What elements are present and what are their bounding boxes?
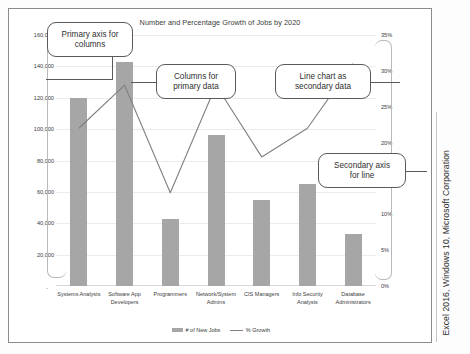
category-label-line2: Administrators [330,298,376,306]
page-edge-divider [436,112,437,342]
category-label-6: DatabaseAdministrators [330,290,376,306]
category-label-5: Info SecurityAnalysts [285,290,331,306]
category-label-line1: Database [330,290,376,298]
legend-label-growth: % Growth [246,327,270,333]
category-label-line1: Network/System [193,290,239,298]
legend-label-new-jobs: # of New Jobs [185,327,220,333]
callout-columns-primary-line1: Columns for [173,72,219,82]
bar-swatch-icon [172,328,183,332]
callout-columns-primary[interactable]: Columns for primary data [156,64,236,99]
leader-columns-primary [131,82,158,83]
y2-tick-35: 35% [381,32,411,38]
callout-columns-primary-line2: primary data [173,82,219,92]
legend-item-new-jobs[interactable]: # of New Jobs [172,327,220,333]
leader-secondary-axis [405,171,427,172]
callout-line-secondary[interactable]: Line chart as secondary data [275,64,371,99]
category-label-line1: Info Security [285,290,331,298]
category-label-line1: CIS Managers [239,290,285,298]
leader-primary-axis-horizontal [46,79,113,80]
category-label-2: Programmers [147,290,193,298]
category-label-line2: Analysts [285,298,331,306]
line-swatch-icon [230,330,243,331]
category-label-line1: Software App [102,290,148,298]
category-label-4: CIS Managers [239,290,285,298]
y-tick-zero: - [46,285,48,291]
category-label-3: Network/SystemAdmins [193,290,239,306]
callout-primary-axis[interactable]: Primary axis for columns [47,22,133,57]
category-label-line2: Admins [193,298,239,306]
callout-secondary-axis[interactable]: Secondary axis for line [318,153,406,188]
callout-secondary-axis-line2: for line [334,171,390,181]
category-axis-labels: Systems AnalystsSoftware AppDevelopersPr… [56,290,376,322]
category-label-0: Systems Analysts [56,290,102,298]
category-label-line1: Programmers [147,290,193,298]
category-label-1: Software AppDevelopers [102,290,148,306]
callout-line-secondary-line2: secondary data [295,82,351,92]
category-label-line1: Systems Analysts [56,290,102,298]
callout-line-secondary-line1: Line chart as [295,72,351,82]
leader-line-secondary [370,82,400,83]
callout-secondary-axis-line1: Secondary axis [334,161,390,171]
leader-primary-axis-vertical [112,57,113,80]
callout-primary-axis-line2: columns [62,40,119,50]
screenshot-root: Excel 2016, Windows 10, Microsoft Corpor… [0,0,470,354]
category-label-line2: Developers [102,298,148,306]
y2-tick-0: 0% [381,283,411,289]
callout-primary-axis-line1: Primary axis for [62,30,119,40]
legend-item-growth[interactable]: % Growth [230,327,270,333]
source-caption: Excel 2016, Windows 10, Microsoft Corpor… [441,150,451,336]
chart-legend: # of New Jobs % Growth [9,327,433,333]
